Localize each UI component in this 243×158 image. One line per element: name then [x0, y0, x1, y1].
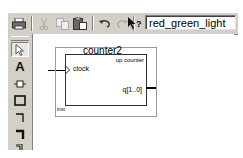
svg-text:?: ?: [136, 19, 142, 29]
printer-icon: [12, 18, 26, 30]
toolbar-separator: [92, 16, 94, 31]
context-help-button[interactable]: ?: [126, 16, 144, 31]
cut-button[interactable]: [36, 16, 52, 31]
toolbar-separator: [31, 16, 33, 31]
paste-button[interactable]: [72, 16, 88, 31]
q-port-label: q[1..0]: [123, 86, 142, 93]
node-tool-button[interactable]: [11, 110, 29, 125]
rectangle-tool-icon: [14, 95, 26, 106]
tool-palette: A: [8, 34, 33, 150]
copy-button[interactable]: [54, 16, 70, 31]
clock-port-label: clock: [73, 65, 89, 72]
help-pointer-icon: ?: [127, 17, 143, 30]
undo-icon: [99, 19, 111, 29]
symbol-subtitle: up counter: [116, 57, 144, 63]
arrow-cursor-icon: [15, 44, 25, 56]
selection-tool-button[interactable]: [11, 42, 29, 57]
bus-tool-icon: [15, 129, 25, 140]
q-bus-wire[interactable]: [146, 87, 156, 89]
bus-tool-button[interactable]: [11, 127, 29, 142]
scissors-icon: [38, 18, 50, 30]
counter-symbol[interactable]: up counter clock q[1..0]: [65, 54, 147, 106]
toolbar: ? red_green_light: [8, 12, 238, 35]
node-tool-icon: [15, 112, 25, 123]
conduit-tool-icon: [15, 144, 25, 150]
rectangle-tool-button[interactable]: [11, 93, 29, 108]
text-tool-button[interactable]: A: [11, 59, 29, 74]
undo-button[interactable]: [97, 16, 113, 31]
clock-edge-icon-fill: [66, 67, 69, 73]
symbol-tool-button[interactable]: [11, 76, 29, 91]
instance-label: inst: [57, 106, 65, 112]
paste-icon: [73, 17, 87, 30]
entity-name-field[interactable]: red_green_light: [145, 15, 236, 30]
text-tool-icon: A: [15, 60, 24, 73]
print-button[interactable]: [11, 16, 27, 31]
symbol-tool-icon: [14, 79, 26, 89]
copy-icon: [56, 18, 69, 30]
schematic-canvas[interactable]: counter2 up counter clock q[1..0] inst: [33, 34, 234, 150]
conduit-tool-button[interactable]: [11, 144, 29, 150]
palette-grip[interactable]: [11, 36, 29, 41]
